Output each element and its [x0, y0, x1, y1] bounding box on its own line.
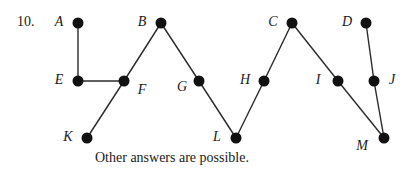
node-a	[73, 18, 84, 29]
node-label-b: B	[138, 15, 147, 29]
node-l	[231, 133, 242, 144]
edge-j-m	[374, 81, 384, 138]
problem-number: 10.	[17, 15, 35, 29]
edge-l-h	[236, 81, 264, 138]
node-label-i: I	[316, 73, 321, 87]
node-label-f: F	[138, 83, 147, 97]
node-c	[287, 18, 298, 29]
node-label-j: J	[389, 73, 395, 87]
node-label-m: M	[356, 139, 368, 153]
node-i	[333, 76, 344, 87]
edge-h-c	[264, 23, 292, 81]
edge-f-b	[124, 23, 161, 81]
caption: Other answers are possible.	[95, 151, 249, 165]
node-label-d: D	[342, 15, 352, 29]
edge-b-g	[161, 23, 199, 81]
node-label-h: H	[240, 73, 250, 87]
node-label-k: K	[63, 130, 72, 144]
edge-f-k	[87, 81, 124, 138]
node-e	[73, 76, 84, 87]
node-k	[82, 133, 93, 144]
node-label-e: E	[55, 73, 64, 87]
node-label-c: C	[268, 15, 277, 29]
node-m	[379, 133, 390, 144]
node-g	[194, 76, 205, 87]
node-j	[369, 76, 380, 87]
node-label-l: L	[213, 130, 221, 144]
node-label-g: G	[177, 80, 187, 94]
node-b	[156, 18, 167, 29]
node-d	[361, 18, 372, 29]
edge-d-j	[366, 23, 374, 81]
edge-i-m	[338, 81, 384, 138]
node-h	[259, 76, 270, 87]
node-f	[119, 76, 130, 87]
nodes-group	[73, 18, 390, 144]
node-label-a: A	[55, 15, 64, 29]
